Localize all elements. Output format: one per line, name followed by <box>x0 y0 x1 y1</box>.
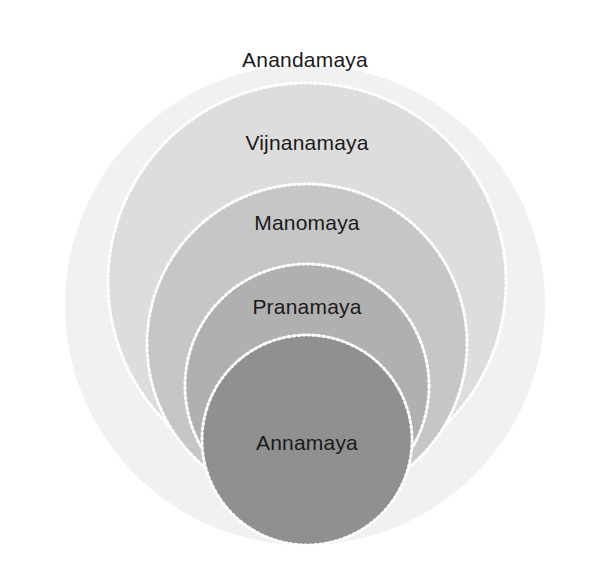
circle-layer-group <box>65 65 545 545</box>
diagram-canvas: Anandamaya Vijnanamaya Manomaya Pranamay… <box>0 0 607 579</box>
kosha-nested-circles-svg <box>0 0 607 579</box>
circle-annamaya[interactable] <box>202 335 412 545</box>
